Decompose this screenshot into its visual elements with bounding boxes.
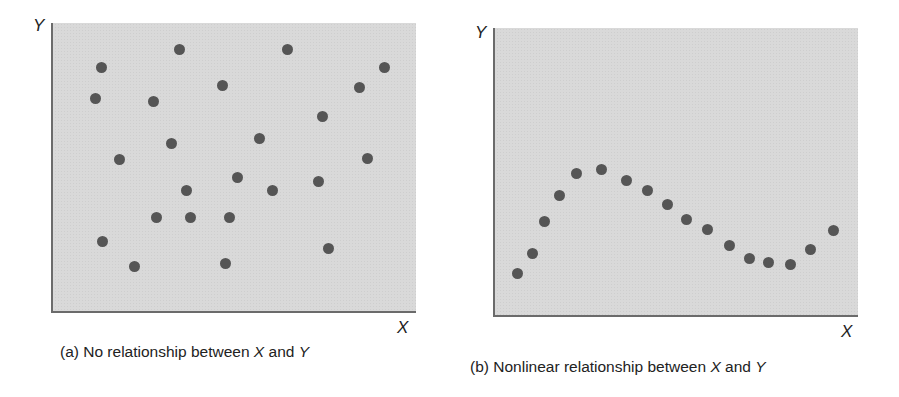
- data-point: [181, 185, 192, 196]
- data-point: [267, 185, 278, 196]
- data-point: [621, 175, 632, 186]
- data-point: [129, 261, 140, 272]
- data-point: [313, 176, 324, 187]
- panel-b-caption-y: Y: [755, 358, 765, 375]
- panel-b-caption-and: and: [721, 358, 755, 375]
- panel-a-y-axis-label: Y: [33, 16, 44, 36]
- data-point: [97, 236, 108, 247]
- panel-a-caption-x: X: [254, 343, 264, 360]
- data-point: [785, 259, 796, 270]
- data-point: [217, 80, 228, 91]
- panel-a-plot-area: [51, 23, 416, 313]
- panel-b-plot-area: [493, 28, 858, 317]
- data-point: [702, 224, 713, 235]
- data-point: [539, 216, 550, 227]
- panel-a-caption: (a) No relationship between X and Y: [60, 343, 309, 361]
- panel-b-caption-prefix: (b) Nonlinear relationship between: [470, 358, 710, 375]
- panel-a-x-axis-line: [51, 311, 416, 313]
- data-point: [282, 44, 293, 55]
- panel-a-caption-and: and: [264, 343, 298, 360]
- panel-a-caption-y: Y: [299, 343, 309, 360]
- data-point: [317, 111, 328, 122]
- data-point: [805, 244, 816, 255]
- data-point: [512, 268, 523, 279]
- data-point: [724, 240, 735, 251]
- data-point: [354, 82, 365, 93]
- data-point: [166, 138, 177, 149]
- panel-b-x-axis-line: [493, 315, 858, 317]
- data-point: [232, 172, 243, 183]
- data-point: [527, 248, 538, 259]
- data-point: [185, 212, 196, 223]
- data-point: [323, 243, 334, 254]
- data-point: [571, 168, 582, 179]
- data-point: [254, 133, 265, 144]
- data-point: [828, 225, 839, 236]
- data-point: [96, 62, 107, 73]
- data-point: [148, 96, 159, 107]
- data-point: [362, 153, 373, 164]
- panel-b-caption-x: X: [710, 358, 720, 375]
- data-point: [379, 62, 390, 73]
- data-point: [224, 212, 235, 223]
- panel-b-y-axis-label: Y: [475, 23, 486, 43]
- data-point: [642, 185, 653, 196]
- data-point: [554, 190, 565, 201]
- panel-a-y-axis-line: [51, 23, 53, 313]
- data-point: [662, 199, 673, 210]
- data-point: [90, 93, 101, 104]
- data-point: [763, 257, 774, 268]
- panel-b-y-axis-line: [493, 28, 495, 317]
- data-point: [744, 253, 755, 264]
- panel-a-caption-prefix: (a) No relationship between: [60, 343, 254, 360]
- data-point: [114, 154, 125, 165]
- panel-a-x-axis-label: X: [397, 318, 408, 338]
- data-point: [220, 258, 231, 269]
- data-point: [596, 164, 607, 175]
- data-point: [151, 212, 162, 223]
- data-point: [681, 214, 692, 225]
- data-point: [174, 44, 185, 55]
- panel-b-x-axis-label: X: [841, 322, 852, 342]
- panel-b-caption: (b) Nonlinear relationship between X and…: [470, 358, 766, 376]
